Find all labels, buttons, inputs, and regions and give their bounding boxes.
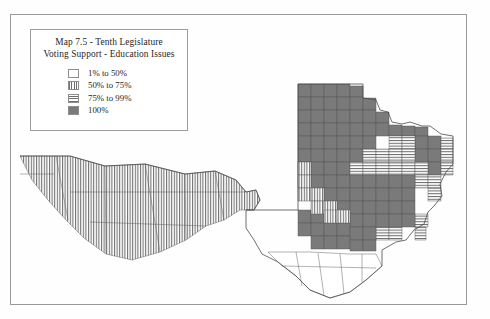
legend-title-line1: Map 7.5 - Tenth Legislature	[31, 36, 187, 48]
map-page: Map 7.5 - Tenth Legislature Voting Suppo…	[0, 0, 490, 319]
legend-swatch-75-to-99	[68, 94, 79, 103]
legend-item: 100%	[68, 105, 187, 118]
legend-items: 1% to 50% 50% to 75% 75% to 99% 100%	[31, 67, 187, 117]
legend-item: 50% to 75%	[68, 79, 187, 92]
region-south-texas	[268, 252, 382, 298]
legend-item: 75% to 99%	[68, 92, 187, 105]
legend-label-75-to-99: 75% to 99%	[88, 93, 132, 104]
legend-title-line2: Voting Support - Education Issues	[31, 48, 187, 60]
legend-item: 1% to 50%	[68, 67, 187, 80]
legend-swatch-50-to-75	[68, 81, 79, 90]
region-west-texas	[20, 156, 260, 260]
legend-label-50-to-75: 50% to 75%	[88, 80, 132, 91]
map-legend: Map 7.5 - Tenth Legislature Voting Suppo…	[30, 29, 188, 131]
legend-swatch-1-to-50	[68, 69, 79, 78]
region-panhandle	[298, 84, 389, 136]
legend-swatch-100	[68, 106, 79, 115]
legend-label-1-to-50: 1% to 50%	[88, 68, 127, 79]
legend-label-100: 100%	[88, 105, 109, 116]
